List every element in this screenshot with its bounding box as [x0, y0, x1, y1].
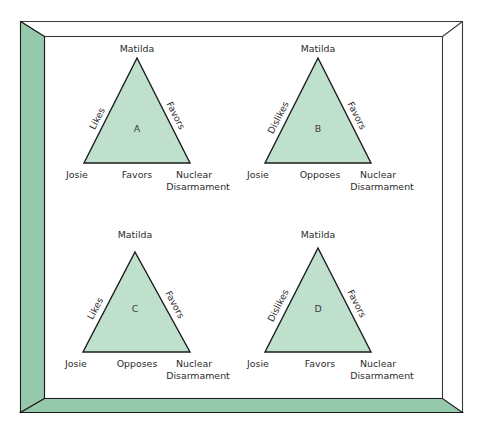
triangle-D-apex-label: Matilda: [301, 229, 335, 240]
triangle-D-bottom-right-label-line1: Nuclear: [360, 358, 396, 369]
triangle-D-identifier: D: [314, 303, 321, 314]
triangle-A-bottom-right-label-line2: Disarmament: [166, 181, 230, 192]
triangle-B-bottom-right-label-line2: Disarmament: [350, 181, 414, 192]
triangle-A-bottom-left-label: Josie: [65, 169, 88, 180]
figure-canvas: Matilda Likes Favors A Josie Favors Nucl…: [0, 0, 488, 431]
triangle-B-identifier: B: [315, 123, 321, 134]
triangle-D-bottom-center-label: Favors: [305, 358, 335, 369]
triangle-C-bottom-right-label-line2: Disarmament: [166, 370, 230, 381]
triangle-C-bottom-left-label: Josie: [64, 358, 87, 369]
frame-bottom-wall: [21, 399, 463, 413]
triangle-D-bottom-left-label: Josie: [246, 358, 269, 369]
triangle-A-apex-label: Matilda: [120, 43, 154, 54]
triangle-B-bottom-left-label: Josie: [246, 169, 269, 180]
triangle-C-bottom-center-label: Opposes: [117, 358, 158, 369]
triangle-C-apex-label: Matilda: [118, 229, 152, 240]
triangle-C-identifier: C: [132, 303, 139, 314]
triangle-D-bottom-right-label-line2: Disarmament: [350, 370, 414, 381]
frame-left-wall: [21, 22, 45, 413]
triangle-A-bottom-right-label-line1: Nuclear: [176, 169, 212, 180]
triangle-A-bottom-center-label: Favors: [122, 169, 152, 180]
triangle-A-identifier: A: [134, 123, 141, 134]
triangle-B-bottom-right-label-line1: Nuclear: [360, 169, 396, 180]
triangle-C-bottom-right-label-line1: Nuclear: [176, 358, 212, 369]
frame-3d: [21, 22, 463, 413]
triangle-B-bottom-center-label: Opposes: [300, 169, 341, 180]
frame-bevel-topright: [443, 22, 463, 37]
triangle-B-apex-label: Matilda: [301, 43, 335, 54]
